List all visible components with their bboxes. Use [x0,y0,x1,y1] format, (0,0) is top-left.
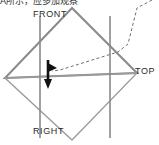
projection-diagram-figure: A所示，应多加观察 FRONT TOP RIGHT [0,0,159,145]
viewing-direction-arrow [44,60,57,89]
view-label-right: RIGHT [33,126,64,136]
triangle-upward [5,8,137,78]
arrow-head [44,79,52,89]
dashed-leader-polyline [52,0,152,71]
triangle-downward [5,73,137,140]
view-label-top: TOP [135,66,155,76]
view-label-front: FRONT [33,9,67,19]
hexagram-triangles [5,8,137,140]
dashed-leader-line [52,0,152,71]
